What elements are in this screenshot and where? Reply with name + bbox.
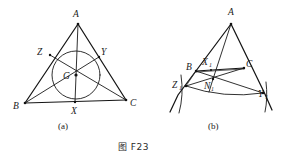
point-Z-dot bbox=[49, 54, 51, 56]
label-B-b: B bbox=[186, 62, 192, 72]
vertex-A-dot bbox=[77, 23, 80, 26]
ray-A-through-Z1 bbox=[170, 24, 231, 112]
vertex-B-dot bbox=[24, 102, 27, 105]
vertex-C-b-dot bbox=[243, 67, 245, 69]
cevian-CZ bbox=[50, 55, 126, 100]
label-A-b: A bbox=[227, 7, 234, 17]
point-Y-dot bbox=[98, 56, 100, 58]
panel-b-sublabel: (b) bbox=[208, 121, 219, 131]
point-N1-dot bbox=[212, 78, 214, 80]
vertex-A-b-dot bbox=[230, 23, 233, 26]
figure-caption: 图 F23 bbox=[118, 140, 149, 153]
label-Y1-subscript: 1 bbox=[265, 94, 268, 100]
vertex-C-dot bbox=[125, 99, 128, 102]
panel-a-sublabel: (a) bbox=[58, 121, 68, 131]
excircle-arc-b bbox=[186, 86, 263, 95]
label-N1-subscript: 1 bbox=[211, 86, 214, 92]
geometry-figure: A B C X Y Z G bbox=[0, 0, 282, 161]
label-C-b: C bbox=[246, 59, 253, 69]
point-X-dot bbox=[74, 101, 76, 103]
label-Y-a: Y bbox=[101, 47, 108, 57]
point-G-dot bbox=[74, 73, 77, 76]
segment-AB bbox=[25, 24, 78, 103]
label-Z1: Z bbox=[172, 80, 178, 90]
label-C-a: C bbox=[130, 98, 137, 108]
label-N1-group: N 1 bbox=[203, 81, 214, 92]
panel-b-diagram: A B C X 1 Y 1 Z 1 N 1 bbox=[170, 7, 272, 113]
label-N1: N bbox=[203, 81, 211, 91]
label-Z1-group: Z 1 bbox=[172, 80, 182, 91]
label-X1: X bbox=[201, 57, 209, 67]
label-Z-a: Z bbox=[37, 47, 43, 57]
label-X1-subscript: 1 bbox=[209, 62, 212, 68]
label-G-a: G bbox=[63, 71, 70, 81]
point-X1-dot bbox=[210, 69, 212, 71]
segment-AC bbox=[78, 24, 126, 100]
point-Z1-dot bbox=[185, 85, 188, 88]
label-X-a: X bbox=[70, 106, 78, 116]
label-B-a: B bbox=[13, 101, 19, 111]
label-A-a: A bbox=[72, 9, 79, 19]
label-Z1-subscript: 1 bbox=[179, 85, 182, 91]
panel-a-diagram: A B C X Y Z G bbox=[13, 9, 137, 116]
figure-page: A B C X Y Z G bbox=[0, 0, 282, 161]
vertex-B-b-dot bbox=[195, 70, 197, 72]
cevian-AX bbox=[75, 24, 78, 102]
label-X1-group: X 1 bbox=[201, 57, 212, 68]
